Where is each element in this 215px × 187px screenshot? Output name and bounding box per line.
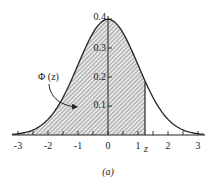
x-tick-label: 1: [136, 140, 141, 151]
figure-caption: (a): [102, 166, 114, 178]
x-tick-label: 2: [166, 140, 171, 151]
x-tick-label: -2: [44, 140, 52, 151]
normal-distribution-chart: -3 -2 -1 0 1 2 3 0.1 0.2 0.3 0.4 z Φ (z)…: [0, 0, 215, 187]
x-tick-label: -3: [14, 140, 22, 151]
y-tick-label: 0.4: [94, 11, 107, 22]
x-tick-label: 3: [196, 140, 201, 151]
z-label: z: [143, 143, 148, 154]
y-tick-label: 0.2: [94, 71, 107, 82]
y-tick-label: 0.1: [94, 99, 107, 110]
x-tick-label: 0: [106, 140, 111, 151]
y-tick-label: 0.3: [94, 42, 107, 53]
x-tick-label: -1: [74, 140, 82, 151]
phi-label: Φ (z): [38, 71, 59, 83]
